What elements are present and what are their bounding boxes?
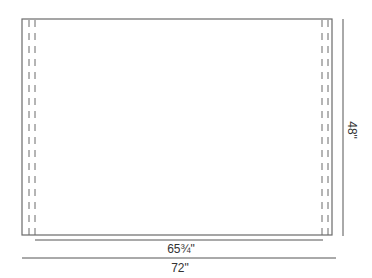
dimension-diagram: 48" 65¾" 72" (0, 0, 372, 278)
height-label: 48" (345, 121, 359, 139)
overall-width-label: 72" (171, 261, 189, 275)
inner-width-label: 65¾" (167, 242, 195, 256)
panel-outline (22, 19, 332, 235)
